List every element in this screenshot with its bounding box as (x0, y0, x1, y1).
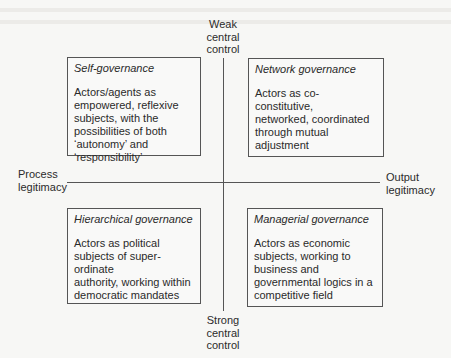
desc-line: Actors as political (74, 237, 194, 250)
axis-label-right: Output legitimacy (386, 171, 435, 196)
axis-label-line: Output (386, 171, 435, 184)
axis-label-line: legitimacy (386, 184, 435, 197)
quadrant-managerial-governance: Managerial governance Actors as economic… (247, 208, 383, 307)
desc-line: competitive field (254, 289, 376, 302)
desc-line: Actors as economic (254, 237, 376, 250)
quadrant-title: Managerial governance (254, 213, 376, 226)
axis-label-line: central (198, 327, 248, 340)
desc-line: subjects, working to (254, 250, 376, 263)
desc-line: subjects, with the (74, 112, 194, 125)
axis-label-top: Weak central control (198, 18, 248, 56)
quadrant-description: Actors as economic subjects, working to … (254, 237, 376, 302)
desc-line: business and (254, 263, 376, 276)
quadrant-hierarchical-governance: Hierarchical governance Actors as politi… (67, 208, 201, 304)
desc-line: subjects of super-ordinate (74, 250, 194, 276)
desc-line: Actors as co-constitutive, (255, 87, 377, 113)
desc-line: democratic mandates (74, 289, 194, 302)
desc-line: ‘autonomy’ and (74, 138, 194, 151)
desc-line: governmental logics in a (254, 276, 376, 289)
axis-label-left: Process legitimacy (18, 168, 67, 193)
quadrant-title: Self-governance (74, 62, 194, 75)
desc-line: networked, coordinated (255, 113, 377, 126)
vertical-axis (223, 58, 224, 311)
axis-label-line: legitimacy (18, 181, 67, 194)
quadrant-title: Network governance (255, 63, 377, 76)
desc-line: authority, working within (74, 276, 194, 289)
page-bleed (0, 8, 451, 12)
quadrant-title: Hierarchical governance (74, 213, 194, 226)
desc-line: ‘responsibility’ (74, 151, 194, 164)
quadrant-network-governance: Network governance Actors as co-constitu… (248, 58, 384, 157)
quadrant-description: Actors as political subjects of super-or… (74, 237, 194, 302)
horizontal-axis (67, 182, 380, 183)
desc-line: Actors/agents as (74, 86, 194, 99)
axis-label-line: Process (18, 168, 67, 181)
quadrant-description: Actors/agents as empowered, reflexive su… (74, 86, 194, 164)
desc-line: possibilities of both (74, 125, 194, 138)
axis-label-line: control (198, 43, 248, 56)
desc-line: through mutual adjustment (255, 126, 377, 152)
axis-label-bottom: Strong central control (198, 314, 248, 352)
axis-label-line: Weak (198, 18, 248, 31)
quadrant-description: Actors as co-constitutive, networked, co… (255, 87, 377, 152)
axis-label-line: control (198, 339, 248, 352)
axis-label-line: Strong (198, 314, 248, 327)
axis-label-line: central (198, 31, 248, 44)
quadrant-self-governance: Self-governance Actors/agents as empower… (67, 57, 201, 156)
desc-line: empowered, reflexive (74, 99, 194, 112)
